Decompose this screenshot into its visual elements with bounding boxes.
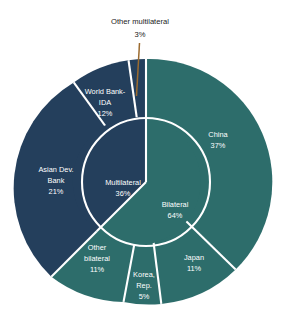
label-japan-name: Japan	[184, 253, 204, 262]
label-bilateral-name: Bilateral	[162, 200, 189, 209]
label-bilateral-value: 64%	[168, 211, 183, 220]
label-japan-value: 11%	[187, 264, 202, 273]
callout-label-value: 3%	[135, 30, 146, 39]
label-wb-line1: World Bank-	[85, 87, 126, 96]
label-wb-value: 12%	[98, 109, 113, 118]
label-korea-name-line1: Korea,	[133, 270, 155, 279]
label-wb-line2: IDA	[99, 98, 111, 107]
label-other-bilateral-line2: bilateral	[84, 254, 110, 263]
label-other-bilateral-line1: Other	[88, 243, 107, 252]
nested-donut-chart: China 37% Japan 11% Korea, Rep. 5% Other…	[0, 0, 290, 335]
label-adb-line1: Asian Dev.	[38, 165, 73, 174]
label-korea-value: 5%	[139, 292, 150, 301]
label-adb-line2: Bank	[48, 176, 65, 185]
label-multilateral-name: Multilateral	[105, 178, 141, 187]
label-korea-name-line2: Rep.	[136, 281, 152, 290]
chart-svg: China 37% Japan 11% Korea, Rep. 5% Other…	[0, 0, 290, 335]
label-china-value: 37%	[211, 141, 226, 150]
label-china-name: China	[208, 130, 228, 139]
label-other-bilateral-value: 11%	[90, 265, 105, 274]
callout-label-name: Other multilateral	[111, 17, 169, 26]
label-multilateral-value: 36%	[116, 189, 131, 198]
label-adb-value: 21%	[49, 187, 64, 196]
